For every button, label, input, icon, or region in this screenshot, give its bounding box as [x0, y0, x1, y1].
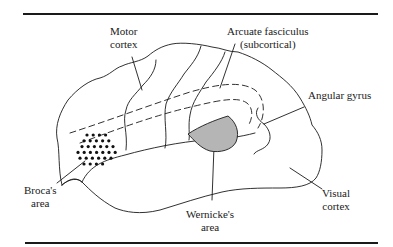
brocas-dot [107, 139, 110, 142]
brocas-dot [89, 139, 92, 142]
brocas-dot [82, 139, 85, 142]
brain-diagram-figure: Motor cortex Arcuate fasciculus (subcort… [0, 0, 393, 247]
brocas-dot [78, 157, 81, 160]
brocas-dot [91, 157, 94, 160]
brocas-dot [105, 145, 108, 148]
motor-cortex-leader [132, 57, 142, 90]
brocas-dot [101, 162, 104, 165]
brocas-dot [87, 145, 90, 148]
visual-cortex-leader [290, 168, 322, 189]
brocas-dot [76, 151, 79, 154]
brocas-dot [93, 145, 96, 148]
brocas-dot [103, 157, 106, 160]
label-arcuate-fasciculus: Arcuate fasciculus (subcortical) [227, 25, 309, 51]
brocas-dot [80, 145, 83, 148]
brocas-dot [111, 145, 114, 148]
brocas-dot [114, 151, 117, 154]
brocas-dot [95, 139, 98, 142]
brocas-dot [104, 133, 107, 136]
brocas-dot [101, 139, 104, 142]
brocas-dot [82, 162, 85, 165]
brocas-dot [85, 157, 88, 160]
brocas-dot [109, 157, 112, 160]
brocas-dot [83, 151, 86, 154]
brocas-dot [97, 157, 100, 160]
brocas-dot [95, 162, 98, 165]
label-motor-cortex: Motor cortex [110, 25, 138, 51]
wernickes-area-shape [188, 116, 238, 152]
angular-gyrus-leader [264, 107, 304, 124]
brocas-dot [99, 145, 102, 148]
label-angular-gyrus: Angular gyrus [308, 89, 371, 102]
brocas-dot [89, 162, 92, 165]
label-wernickes-area: Wernicke's area [186, 208, 234, 234]
angular-gyrus-outline [254, 108, 270, 154]
brocas-dot [101, 151, 104, 154]
frontal-inferior-line [62, 179, 82, 185]
brocas-dot [85, 133, 88, 136]
brocas-dot [107, 151, 110, 154]
brocas-dot [89, 151, 92, 154]
brocas-area-dots [76, 133, 116, 165]
wernicke-leader [212, 147, 214, 200]
label-visual-cortex: Visual cortex [322, 187, 350, 213]
brocas-dot [98, 133, 101, 136]
brocas-dot [92, 133, 95, 136]
brocas-dot [95, 151, 98, 154]
label-brocas-area: Broca's area [24, 184, 57, 210]
